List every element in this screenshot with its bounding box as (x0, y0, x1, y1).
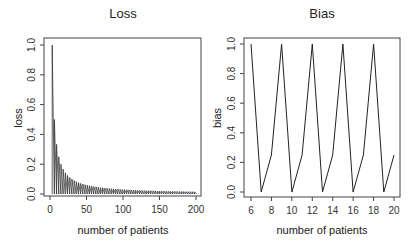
y-tick-label: 0.8 (26, 67, 37, 81)
bias-chart-panel: Bias number of patients bias (206, 0, 413, 248)
y-tick-label: 0.6 (26, 97, 37, 111)
y-tick-label: 0.2 (26, 157, 37, 171)
bias-chart-title: Bias (242, 6, 402, 21)
x-tick-label: 150 (151, 204, 168, 215)
bias-y-axis-label: bias (211, 98, 223, 138)
bias-x-axis-label: number of patients (242, 224, 402, 236)
y-tick-label: 0.4 (26, 127, 37, 141)
x-tick-label: 100 (115, 204, 132, 215)
y-tick-label: 1.0 (26, 38, 37, 52)
loss-plot-area: 0501001502000.00.20.40.60.81.0 (0, 0, 206, 248)
loss-series-line (52, 45, 197, 194)
y-tick-label: 0.0 (26, 187, 37, 201)
loss-plot-frame (44, 38, 201, 196)
x-tick-label: 50 (81, 204, 93, 215)
loss-chart-panel: Loss number of patients loss 05010015020… (0, 0, 206, 248)
x-tick-label: 200 (188, 204, 205, 215)
x-tick-label: 0 (47, 204, 53, 215)
